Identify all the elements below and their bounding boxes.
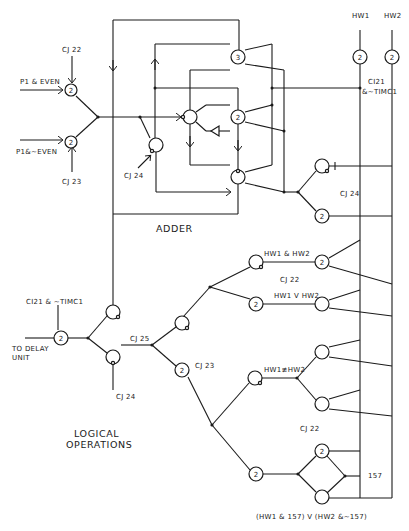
- logic-diagram: 2 2 3: [0, 0, 409, 531]
- hw-inputs: 2 2: [353, 30, 399, 498]
- label-p1-even: P1 & EVEN: [20, 78, 60, 86]
- svg-text:2: 2: [320, 259, 324, 267]
- label-cj25: CJ 25: [130, 335, 150, 343]
- label-cj22-logic: CJ 22: [280, 276, 300, 284]
- svg-text:2: 2: [320, 213, 324, 221]
- svg-text:2: 2: [320, 448, 324, 456]
- label-timc1-top: &~TIMC1: [362, 88, 397, 96]
- label-operations: OPERATIONS: [66, 439, 132, 450]
- label-mux-expr: (HW1 & 157) V (HW2 &~157): [256, 513, 367, 521]
- label-cj24-adder: CJ 24: [124, 172, 144, 180]
- label-157: 157: [368, 472, 382, 480]
- label-logical: LOGICAL: [74, 428, 119, 439]
- label-cj22-lower: CJ 22: [300, 425, 320, 433]
- label-adder: ADDER: [156, 223, 193, 234]
- label-cj24-right: CJ 24: [340, 190, 360, 198]
- label-hw1-and-hw2: HW1 & HW2: [264, 250, 310, 258]
- circuit-svg: 2 2 3: [0, 0, 409, 531]
- svg-text:2: 2: [69, 87, 73, 95]
- label-cj23-logic: CJ 23: [195, 362, 215, 370]
- label-p1-not-even: P1&~EVEN: [16, 148, 57, 156]
- svg-text:2: 2: [59, 335, 63, 343]
- label-unit: UNIT: [12, 354, 30, 362]
- label-cj24-bottom: CJ 24: [116, 393, 136, 401]
- label-ci21-top: CI21: [368, 78, 385, 86]
- logic-section: 2 2 2 2: [25, 240, 392, 504]
- svg-text:2: 2: [69, 139, 73, 147]
- node-xor-b: [315, 397, 329, 411]
- label-to-delay: TO DELAY: [12, 345, 49, 353]
- svg-text:2: 2: [254, 471, 258, 479]
- svg-text:2: 2: [254, 301, 258, 309]
- svg-text:2: 2: [180, 367, 184, 375]
- label-hw1: HW1: [352, 12, 370, 20]
- label-hw1-xor-hw2: HW1≢HW2: [264, 366, 305, 374]
- adder-section: 3 2: [113, 20, 392, 318]
- label-cj23: CJ 23: [62, 178, 82, 186]
- svg-text:2: 2: [358, 54, 362, 62]
- node-mux-b: [315, 490, 329, 504]
- svg-text:3: 3: [236, 54, 240, 62]
- label-cj22-top: CJ 22: [62, 46, 82, 54]
- label-ci21-out: CI21 & ~TIMC1: [26, 298, 83, 306]
- node-xor-a: [315, 345, 329, 359]
- label-hw2: HW2: [384, 12, 402, 20]
- svg-text:2: 2: [390, 54, 394, 62]
- svg-text:2: 2: [236, 114, 240, 122]
- label-hw1-or-hw2: HW1 V HW2: [274, 292, 319, 300]
